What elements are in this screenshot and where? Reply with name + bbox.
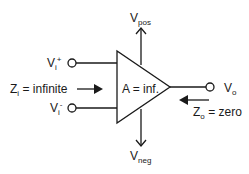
vneg-label: Vneg — [130, 149, 151, 165]
vo-terminal-icon — [206, 83, 214, 91]
zi-label: Zi = infinite — [10, 82, 68, 98]
op-amp-diagram: A = inf. Vpos Vneg Vi+ Vi- Zi = infinite… — [0, 0, 249, 174]
amplifier-gain-label: A = inf. — [122, 82, 159, 96]
arrow-right-icon — [94, 84, 103, 94]
vi-minus-terminal-icon — [68, 104, 76, 112]
vpos-label: Vpos — [130, 11, 151, 27]
zo-label: Zo = zero — [193, 105, 242, 121]
vo-label: Vo — [224, 81, 237, 97]
vi-plus-terminal-icon — [68, 59, 76, 67]
vi-minus-label: Vi- — [50, 100, 63, 117]
vi-plus-label: Vi+ — [47, 55, 62, 72]
